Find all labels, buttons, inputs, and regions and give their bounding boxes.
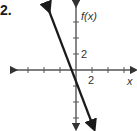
y-axis: 2 f(x) <box>73 4 97 127</box>
function-line <box>48 8 93 126</box>
y-tick-label: 2 <box>81 48 87 60</box>
y-axis-label: f(x) <box>81 10 97 22</box>
graph: 2 x 2 f(x) <box>0 0 137 131</box>
x-tick-label: 2 <box>88 74 94 86</box>
x-axis-label: x <box>126 75 133 87</box>
